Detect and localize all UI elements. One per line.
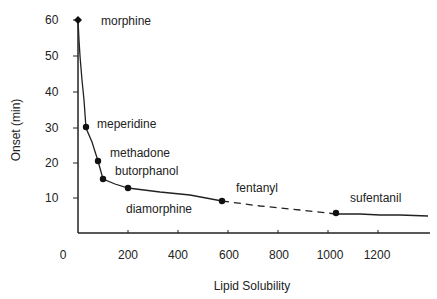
svg-text:600: 600 — [219, 248, 239, 262]
svg-text:30: 30 — [45, 121, 59, 135]
point-methadone — [95, 158, 101, 164]
point-meperidine — [83, 124, 89, 130]
svg-text:fentanyl: fentanyl — [236, 181, 278, 195]
onset-curve-dashed — [222, 201, 336, 214]
svg-text:200: 200 — [118, 248, 138, 262]
svg-text:diamorphine: diamorphine — [126, 202, 192, 216]
onset-vs-lipid-chart: 60 50 40 30 20 10 0 200 400 600 800 1000… — [0, 0, 437, 299]
svg-text:800: 800 — [269, 248, 289, 262]
svg-text:morphine: morphine — [101, 14, 151, 28]
svg-text:methadone: methadone — [110, 146, 170, 160]
svg-text:40: 40 — [45, 85, 59, 99]
svg-text:50: 50 — [45, 49, 59, 63]
svg-text:sufentanil: sufentanil — [350, 191, 401, 205]
x-axis-title: Lipid Solubility — [214, 279, 291, 293]
x-tick-labels: 0 200 400 600 800 1000 1200 — [60, 248, 391, 262]
point-sufentanil — [333, 210, 339, 216]
y-axis-title: Onset (min) — [9, 99, 23, 162]
svg-text:60: 60 — [45, 13, 59, 27]
svg-text:1200: 1200 — [364, 248, 391, 262]
svg-text:20: 20 — [45, 156, 59, 170]
point-fentanyl — [219, 198, 225, 204]
svg-text:meperidine: meperidine — [97, 117, 157, 131]
svg-text:10: 10 — [45, 191, 59, 205]
svg-text:butorphanol: butorphanol — [115, 164, 178, 178]
point-diamorphine — [125, 185, 131, 191]
drug-labels: morphine meperidine methadone butorphano… — [97, 14, 401, 216]
svg-text:1000: 1000 — [317, 248, 344, 262]
y-tick-labels: 60 50 40 30 20 10 — [45, 13, 59, 205]
point-butorphanol — [100, 176, 106, 182]
point-morphine — [74, 16, 82, 24]
svg-text:400: 400 — [168, 248, 188, 262]
svg-text:0: 0 — [60, 248, 67, 262]
onset-curve-tail — [336, 214, 428, 216]
